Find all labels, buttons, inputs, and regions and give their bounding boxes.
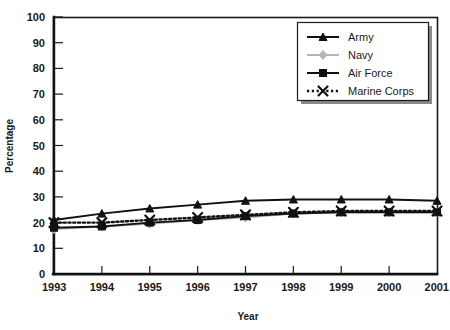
y-tick-label: 0 (39, 268, 45, 280)
y-tick-label: 40 (33, 165, 45, 177)
data-point-marker (320, 70, 327, 77)
y-tick-label: 100 (27, 11, 45, 23)
x-tick-label: 1993 (42, 281, 66, 293)
legend-label: Navy (348, 49, 374, 61)
y-axis-title: Percentage (4, 119, 15, 173)
legend-label: Army (348, 31, 374, 43)
chart-legend: ArmyNavyAir ForceMarine Corps (298, 23, 433, 105)
x-tick-label: 2001 (425, 281, 449, 293)
y-tick-label: 20 (33, 217, 45, 229)
x-tick-label: 1997 (233, 281, 257, 293)
y-tick-label: 10 (33, 242, 45, 254)
y-tick-label: 50 (33, 140, 45, 152)
x-tick-label: 1994 (90, 281, 115, 293)
x-axis-ticks: 199319941995199619971998199920002001 (42, 266, 449, 293)
y-axis-ticks: 0102030405060708090100 (27, 11, 63, 280)
x-tick-label: 1998 (281, 281, 305, 293)
y-tick-label: 60 (33, 114, 45, 126)
x-tick-label: 1995 (138, 281, 162, 293)
data-series-layer (50, 195, 442, 233)
chart-container: 0102030405060708090100 19931994199519961… (0, 0, 450, 330)
x-tick-label: 2000 (377, 281, 401, 293)
legend-label: Marine Corps (348, 85, 415, 97)
legend-label: Air Force (348, 67, 393, 79)
x-axis-title: Year (237, 311, 258, 322)
y-tick-label: 80 (33, 62, 45, 74)
y-tick-label: 90 (33, 37, 45, 49)
x-tick-label: 1996 (185, 281, 209, 293)
line-chart: 0102030405060708090100 19931994199519961… (0, 0, 450, 330)
y-tick-label: 70 (33, 88, 45, 100)
y-tick-label: 30 (33, 191, 45, 203)
x-tick-label: 1999 (329, 281, 353, 293)
